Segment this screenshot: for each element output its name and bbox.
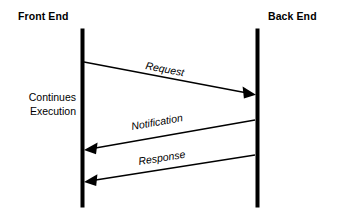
lifeline-front-end <box>81 29 85 208</box>
lifeline-back-end <box>256 29 260 208</box>
participant-label-front-end: Front End <box>18 10 68 22</box>
participant-label-back-end: Back End <box>268 10 317 22</box>
note-continues-execution-line1: Continues <box>29 91 76 103</box>
note-continues-execution-line2: Execution <box>30 105 76 117</box>
sequence-diagram-svg: Front End Back End Continues Execution R… <box>0 0 339 221</box>
sequence-diagram-canvas: Front End Back End Continues Execution R… <box>0 0 339 221</box>
